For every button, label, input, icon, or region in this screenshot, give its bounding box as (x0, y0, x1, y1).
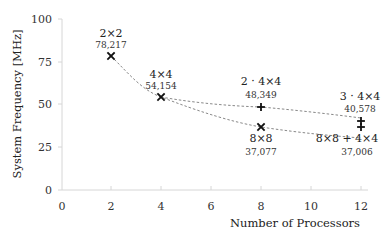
label-8x8: 8×8 (249, 132, 272, 145)
value-2-4x4: 48,349 (245, 90, 277, 100)
value-4x4: 54,154 (145, 81, 177, 91)
x-tick-labels: 0 2 4 6 8 10 12 (59, 200, 369, 213)
label-4x4: 4×4 (149, 68, 172, 81)
x-tick-12: 12 (354, 200, 368, 213)
y-tick-0: 0 (45, 184, 52, 197)
x-tick-2: 2 (108, 200, 115, 213)
y-tick-25: 25 (38, 141, 52, 154)
marker-plus-icon (358, 124, 364, 130)
value-2x2: 78,217 (95, 40, 127, 50)
marker-plus-icon (258, 104, 264, 110)
point-annotations: 2×2 78,217 4×4 54,154 2 · 4×4 48,349 3 ·… (95, 27, 380, 157)
y-tick-75: 75 (38, 56, 52, 69)
value-3-4x4: 40,578 (344, 104, 376, 114)
markers (108, 53, 364, 130)
label-8x8-plus-4x4: 8×8 + 4×4 (316, 132, 379, 145)
label-2-4x4: 2 · 4×4 (241, 75, 282, 88)
label-3-4x4: 3 · 4×4 (340, 90, 381, 103)
y-axis-title: System Frequency [MHz] (10, 30, 24, 179)
x-tick-8: 8 (258, 200, 265, 213)
label-2x2: 2×2 (99, 27, 122, 40)
x-tick-4: 4 (158, 200, 165, 213)
value-8x8: 37,077 (245, 147, 277, 157)
chart: 100 75 50 25 0 0 2 4 6 8 10 12 Number of… (0, 0, 384, 242)
x-tick-10: 10 (304, 200, 318, 213)
x-axis-title: Number of Processors (230, 216, 360, 230)
y-tick-100: 100 (31, 13, 52, 26)
y-tick-50: 50 (38, 98, 52, 111)
y-tick-labels: 100 75 50 25 0 (31, 13, 52, 197)
value-8x8-plus-4x4: 37,006 (341, 147, 373, 157)
x-tick-0: 0 (59, 200, 66, 213)
x-tick-6: 6 (208, 200, 215, 213)
marker-x-icon (108, 53, 114, 59)
